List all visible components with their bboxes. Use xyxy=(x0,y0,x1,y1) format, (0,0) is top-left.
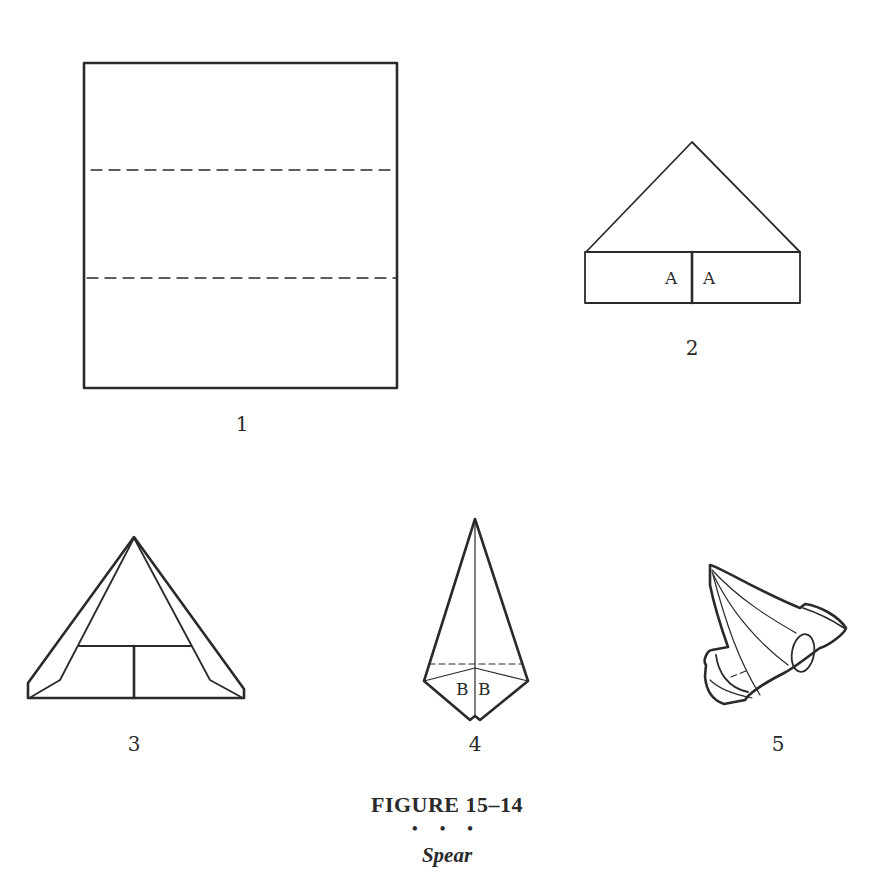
curl-inner-2 xyxy=(710,680,752,698)
label-b-right: B xyxy=(478,681,491,698)
step-1-number: 1 xyxy=(236,414,249,434)
step-5-number: 5 xyxy=(772,734,785,754)
square-outline xyxy=(84,63,397,388)
curl-dashed xyxy=(731,671,746,677)
label-a-left: A xyxy=(665,270,677,287)
curl-inner xyxy=(716,655,748,692)
outer-triangle xyxy=(28,537,244,698)
flap-lines xyxy=(424,668,528,681)
step-5-drawing xyxy=(705,565,846,704)
step-2-drawing xyxy=(585,142,800,303)
right-flap xyxy=(134,538,241,697)
triangle-top xyxy=(586,142,800,252)
step-4-number: 4 xyxy=(469,734,482,754)
left-flap xyxy=(31,538,134,697)
label-a-right: A xyxy=(703,270,715,287)
step-3-number: 3 xyxy=(128,734,141,754)
step-3-drawing xyxy=(28,537,244,698)
figure-title: FIGURE 15–14 xyxy=(0,792,894,818)
step-4-drawing xyxy=(424,519,528,720)
step-1-drawing xyxy=(84,63,397,388)
fold-line-2 xyxy=(712,572,788,665)
step-2-number: 2 xyxy=(686,338,699,358)
figure-separator: • • • xyxy=(0,820,894,838)
label-b-left: B xyxy=(456,681,469,698)
figure-name: Spear xyxy=(0,843,894,868)
kite-outline xyxy=(424,519,528,720)
spear-outline xyxy=(705,565,846,704)
